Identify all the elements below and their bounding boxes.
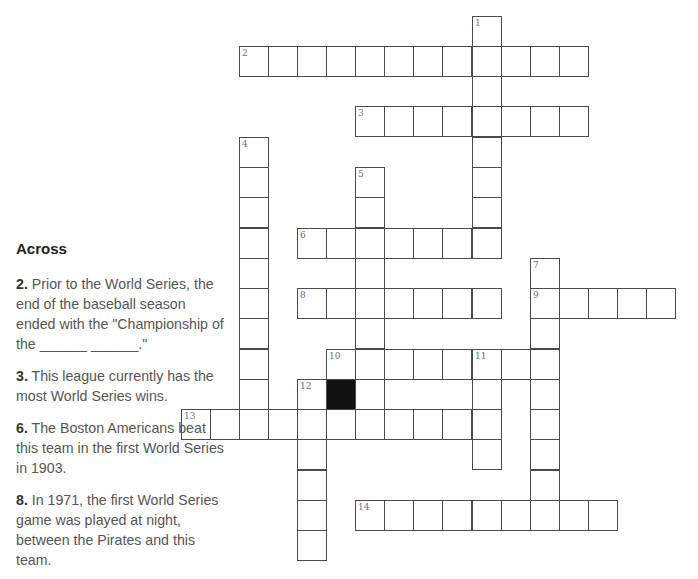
grid-cell[interactable]: [326, 228, 356, 259]
grid-cell[interactable]: [326, 288, 356, 319]
grid-cell[interactable]: [530, 46, 560, 77]
grid-cell[interactable]: [530, 439, 560, 470]
grid-cell[interactable]: [355, 349, 385, 380]
grid-cell[interactable]: [413, 409, 443, 440]
grid-cell[interactable]: [413, 46, 443, 77]
grid-cell[interactable]: [442, 106, 472, 137]
grid-cell[interactable]: [268, 409, 298, 440]
grid-cell[interactable]: [297, 409, 327, 440]
grid-cell[interactable]: [297, 46, 327, 77]
grid-cell[interactable]: [413, 500, 443, 531]
grid-cell[interactable]: [239, 379, 269, 410]
grid-cell[interactable]: [442, 228, 472, 259]
grid-cell[interactable]: [530, 470, 560, 501]
grid-cell[interactable]: [501, 500, 531, 531]
grid-cell[interactable]: [355, 409, 385, 440]
grid-cell[interactable]: [472, 167, 502, 198]
grid-cell[interactable]: [297, 500, 327, 531]
grid-cell[interactable]: [413, 349, 443, 380]
grid-cell[interactable]: [297, 470, 327, 501]
grid-cell[interactable]: [355, 228, 385, 259]
grid-cell[interactable]: [442, 500, 472, 531]
grid-cell[interactable]: [588, 500, 618, 531]
grid-cell[interactable]: [384, 409, 414, 440]
grid-cell[interactable]: [239, 288, 269, 319]
grid-cell[interactable]: [413, 288, 443, 319]
grid-cell[interactable]: [530, 379, 560, 410]
grid-cell[interactable]: [355, 197, 385, 228]
grid-cell[interactable]: [239, 228, 269, 259]
grid-cell[interactable]: 12: [297, 379, 327, 410]
grid-cell[interactable]: [384, 228, 414, 259]
grid-cell[interactable]: [530, 349, 560, 380]
grid-cell[interactable]: [384, 288, 414, 319]
grid-cell[interactable]: [239, 318, 269, 349]
grid-cell[interactable]: [472, 197, 502, 228]
grid-cell[interactable]: 8: [297, 288, 327, 319]
grid-cell[interactable]: [442, 409, 472, 440]
grid-cell[interactable]: [326, 409, 356, 440]
grid-cell[interactable]: [501, 106, 531, 137]
grid-cell[interactable]: [355, 318, 385, 349]
grid-cell[interactable]: [355, 46, 385, 77]
grid-cell[interactable]: 9: [530, 288, 560, 319]
cell-number: 14: [358, 502, 369, 512]
grid-cell[interactable]: [472, 228, 502, 259]
grid-cell[interactable]: [472, 76, 502, 107]
grid-cell[interactable]: [297, 439, 327, 470]
grid-cell[interactable]: [559, 288, 589, 319]
grid-cell[interactable]: [472, 106, 502, 137]
grid-cell[interactable]: [588, 288, 618, 319]
grid-cell[interactable]: 14: [355, 500, 385, 531]
grid-cell[interactable]: [384, 46, 414, 77]
grid-cell[interactable]: [239, 167, 269, 198]
grid-cell[interactable]: [559, 46, 589, 77]
grid-cell[interactable]: [530, 318, 560, 349]
grid-cell[interactable]: 2: [239, 46, 269, 77]
grid-cell[interactable]: [617, 288, 647, 319]
grid-cell[interactable]: [646, 288, 676, 319]
grid-cell[interactable]: [472, 500, 502, 531]
grid-cell[interactable]: 10: [326, 349, 356, 380]
clue-across-3: 3. This league currently has the most Wo…: [16, 366, 228, 406]
grid-cell[interactable]: [472, 46, 502, 77]
grid-cell[interactable]: [472, 439, 502, 470]
grid-cell[interactable]: 7: [530, 258, 560, 289]
grid-cell[interactable]: [355, 258, 385, 289]
grid-cell[interactable]: [501, 349, 531, 380]
grid-cell[interactable]: [472, 288, 502, 319]
grid-cell[interactable]: [355, 288, 385, 319]
grid-cell[interactable]: [530, 500, 560, 531]
grid-cell[interactable]: [472, 137, 502, 168]
grid-cell[interactable]: [530, 106, 560, 137]
grid-cell[interactable]: 6: [297, 228, 327, 259]
grid-cell[interactable]: [384, 349, 414, 380]
grid-cell[interactable]: [355, 379, 385, 410]
grid-cell[interactable]: 11: [472, 349, 502, 380]
grid-cell[interactable]: [442, 288, 472, 319]
grid-cell[interactable]: [559, 500, 589, 531]
grid-cell[interactable]: [442, 46, 472, 77]
grid-cell[interactable]: 1: [472, 16, 502, 47]
grid-cell[interactable]: 5: [355, 167, 385, 198]
grid-cell[interactable]: 3: [355, 106, 385, 137]
grid-cell[interactable]: [268, 46, 298, 77]
grid-cell[interactable]: [239, 258, 269, 289]
grid-cell[interactable]: [239, 349, 269, 380]
grid-cell[interactable]: [297, 530, 327, 561]
grid-cell[interactable]: 4: [239, 137, 269, 168]
grid-cell[interactable]: [530, 409, 560, 440]
grid-cell[interactable]: [326, 46, 356, 77]
grid-cell[interactable]: [239, 409, 269, 440]
grid-cell[interactable]: [442, 349, 472, 380]
grid-cell[interactable]: [472, 379, 502, 410]
grid-cell[interactable]: [384, 500, 414, 531]
grid-cell[interactable]: [559, 106, 589, 137]
grid-cell[interactable]: [413, 228, 443, 259]
grid-cell[interactable]: [413, 106, 443, 137]
grid-cell[interactable]: [239, 197, 269, 228]
grid-cell[interactable]: [384, 106, 414, 137]
cell-number: 4: [242, 139, 248, 149]
grid-cell[interactable]: [501, 46, 531, 77]
grid-cell[interactable]: [472, 409, 502, 440]
